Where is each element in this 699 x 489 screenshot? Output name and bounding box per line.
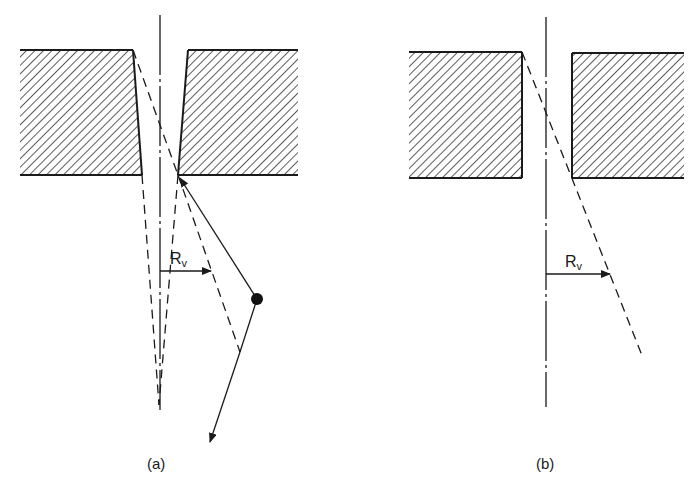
trajectory-incoming-a — [180, 178, 257, 299]
radius-label-b-main: R — [565, 253, 577, 270]
diagram-canvas — [0, 0, 699, 489]
wall-block-left-a — [20, 50, 142, 175]
caption-b: (b) — [536, 455, 554, 472]
radius-label-a: Rv — [170, 250, 187, 269]
caption-b-text: (b) — [536, 455, 554, 472]
trajectory-to-kink-a — [240, 299, 257, 352]
radius-label-a-main: R — [170, 250, 182, 267]
trajectory-outgoing-a — [210, 352, 240, 442]
radius-label-a-sub: v — [182, 257, 188, 269]
caption-a-text: (a) — [147, 455, 165, 472]
panel-a — [20, 15, 298, 442]
wall-block-left-b — [409, 52, 522, 178]
radius-label-b-sub: v — [577, 260, 583, 272]
radius-label-b: Rv — [565, 253, 582, 272]
particle-dot-a — [251, 293, 263, 305]
panel-b — [409, 17, 684, 407]
wall-block-right-a — [178, 50, 298, 175]
wall-block-right-b — [572, 53, 684, 178]
caption-a: (a) — [147, 455, 165, 472]
